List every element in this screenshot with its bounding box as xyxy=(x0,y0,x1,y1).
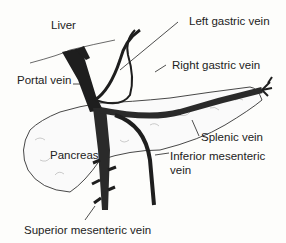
label-pancreas: Pancreas xyxy=(50,149,99,161)
splenic-branches xyxy=(262,77,272,96)
anatomy-illustration xyxy=(0,0,286,243)
label-left-gastric-vein: Left gastric vein xyxy=(189,15,270,27)
portal-system-diagram: Liver Left gastric vein Right gastric ve… xyxy=(0,0,286,243)
left-gastric-vein-shape xyxy=(95,30,140,100)
label-portal-vein: Portal vein xyxy=(17,74,71,86)
label-inferior-mesenteric-vein-line2: vein xyxy=(170,164,191,176)
label-splenic-vein: Splenic vein xyxy=(201,131,263,143)
label-superior-mesenteric-vein: Superior mesenteric vein xyxy=(24,224,151,236)
label-liver: Liver xyxy=(51,19,76,31)
label-right-gastric-vein: Right gastric vein xyxy=(172,59,260,71)
label-inferior-mesenteric-vein-line1: Inferior mesenteric xyxy=(170,150,265,162)
